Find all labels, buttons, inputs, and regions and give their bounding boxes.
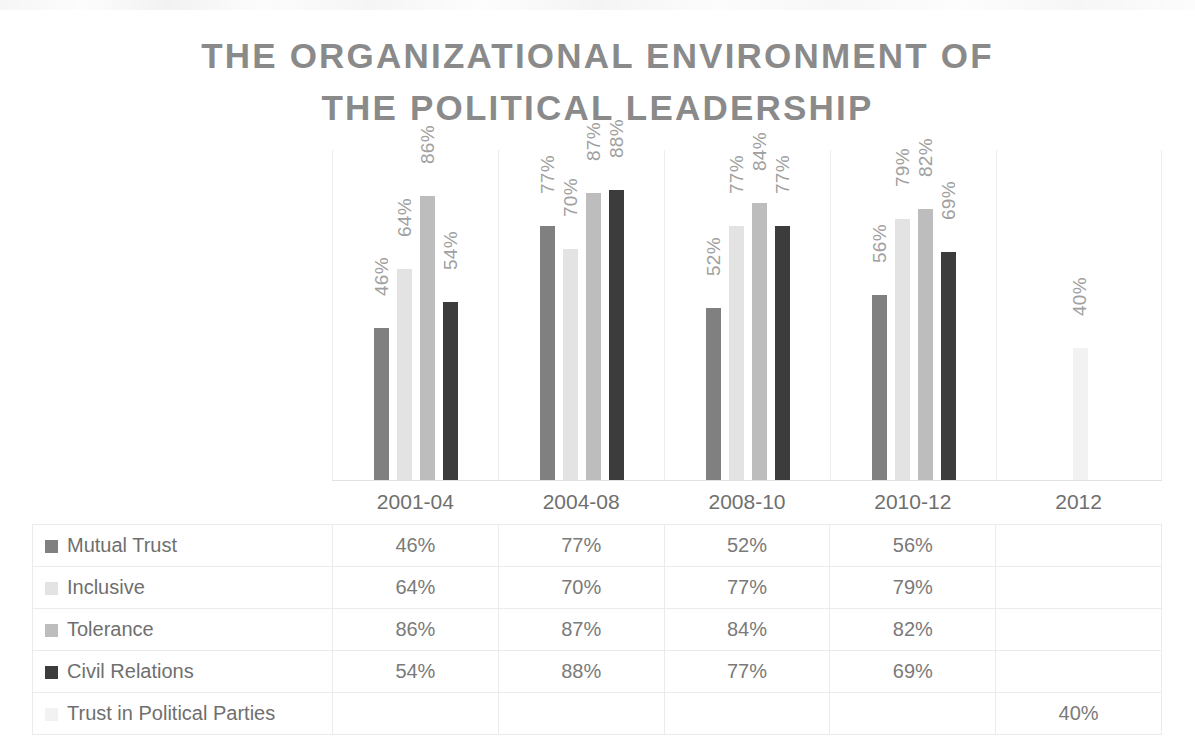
bar-group: 77%70%87%88% xyxy=(499,150,664,480)
legend-swatch-icon xyxy=(45,540,58,553)
bar-rect xyxy=(729,226,744,480)
table-row: Mutual Trust46%77%52%56% xyxy=(33,525,1162,567)
chart-title-line-1: THE ORGANIZATIONAL ENVIRONMENT OF xyxy=(0,30,1195,82)
plot-column-2004-08: 77%70%87%88% xyxy=(498,150,664,480)
legend-item-inclusive[interactable]: Inclusive xyxy=(33,567,333,609)
bar-rect xyxy=(775,226,790,480)
bar-mutual-trust-2001-04[interactable]: 46% xyxy=(374,150,389,480)
bar-civil-relations-2010-12[interactable]: 69% xyxy=(941,150,956,480)
legend-swatch-icon xyxy=(45,582,58,595)
table-cell: 56% xyxy=(830,525,996,567)
table-row: Civil Relations54%88%77%69% xyxy=(33,651,1162,693)
bar-group: 52%77%84%77% xyxy=(665,150,830,480)
table-cell: 86% xyxy=(333,609,499,651)
legend-swatch-icon xyxy=(45,708,58,721)
legend-item-civil-relations[interactable]: Civil Relations xyxy=(33,651,333,693)
bar-rect xyxy=(918,209,933,480)
legend-label: Inclusive xyxy=(67,576,145,598)
table-cell: 88% xyxy=(498,651,664,693)
legend-swatch-icon xyxy=(45,666,58,679)
plot-column-2008-10: 52%77%84%77% xyxy=(664,150,830,480)
bar-value-label: 70% xyxy=(560,178,582,217)
bar-value-label: 40% xyxy=(1069,277,1091,316)
bar-rect xyxy=(1073,348,1088,480)
legend-label: Trust in Political Parties xyxy=(67,702,275,724)
bar-value-label: 77% xyxy=(772,155,794,194)
plot-column-2001-04: 46%64%86%54% xyxy=(332,150,498,480)
bar-tolerance-2001-04[interactable]: 86% xyxy=(420,150,435,480)
bar-rect xyxy=(895,219,910,480)
bar-tolerance-2004-08[interactable]: 87% xyxy=(586,150,601,480)
chart-container: THE ORGANIZATIONAL ENVIRONMENT OF THE PO… xyxy=(0,0,1195,736)
table-row: Tolerance86%87%84%82% xyxy=(33,609,1162,651)
table-cell: 46% xyxy=(333,525,499,567)
table-cell xyxy=(333,693,499,735)
bar-mutual-trust-2004-08[interactable]: 77% xyxy=(540,150,555,480)
bar-mutual-trust-2010-12[interactable]: 56% xyxy=(872,150,887,480)
axis-label-2001-04: 2001-04 xyxy=(333,480,499,525)
bar-value-label: 79% xyxy=(892,148,914,187)
bar-value-label: 69% xyxy=(938,181,960,220)
bar-value-label: 88% xyxy=(606,119,628,158)
bar-value-label: 77% xyxy=(726,155,748,194)
legend-item-tolerance[interactable]: Tolerance xyxy=(33,609,333,651)
bar-rect xyxy=(420,196,435,480)
plot-column-2012: 40% xyxy=(996,150,1162,480)
bar-rect xyxy=(563,249,578,480)
bar-civil-relations-2001-04[interactable]: 54% xyxy=(443,150,458,480)
bar-value-label: 86% xyxy=(417,125,439,164)
axis-label-2012: 2012 xyxy=(996,480,1162,525)
bar-value-label: 84% xyxy=(749,132,771,171)
bar-trust-in-political-parties-2012[interactable]: 40% xyxy=(1073,150,1088,480)
legend-item-trust-in-political-parties[interactable]: Trust in Political Parties xyxy=(33,693,333,735)
axis-label-2010-12: 2010-12 xyxy=(830,480,996,525)
bar-tolerance-2008-10[interactable]: 84% xyxy=(752,150,767,480)
bar-value-label: 77% xyxy=(537,155,559,194)
bar-inclusive-2004-08[interactable]: 70% xyxy=(563,150,578,480)
table-cell: 87% xyxy=(498,609,664,651)
bar-tolerance-2010-12[interactable]: 82% xyxy=(918,150,933,480)
table-cell: 54% xyxy=(333,651,499,693)
table-cell: 77% xyxy=(664,567,830,609)
bar-rect xyxy=(706,308,721,480)
bar-civil-relations-2008-10[interactable]: 77% xyxy=(775,150,790,480)
bar-rect xyxy=(374,328,389,480)
bar-group: 46%64%86%54% xyxy=(333,150,498,480)
table-cell: 64% xyxy=(333,567,499,609)
chart-title: THE ORGANIZATIONAL ENVIRONMENT OF THE PO… xyxy=(0,30,1195,134)
legend-label: Civil Relations xyxy=(67,660,194,682)
bar-value-label: 56% xyxy=(869,224,891,263)
bar-rect xyxy=(752,203,767,480)
table-cell: 84% xyxy=(664,609,830,651)
bar-rect xyxy=(540,226,555,480)
table-cell xyxy=(996,609,1162,651)
bar-value-label: 52% xyxy=(703,237,725,276)
bar-value-label: 54% xyxy=(440,231,462,270)
bar-civil-relations-2004-08[interactable]: 88% xyxy=(609,150,624,480)
plot-column-2010-12: 56%79%82%69% xyxy=(830,150,996,480)
table-cell: 79% xyxy=(830,567,996,609)
table-cell: 77% xyxy=(664,651,830,693)
legend-swatch-icon xyxy=(45,624,58,637)
table-cell xyxy=(996,651,1162,693)
table-cell: 69% xyxy=(830,651,996,693)
table-cell xyxy=(830,693,996,735)
table-cell xyxy=(664,693,830,735)
bar-rect xyxy=(941,252,956,480)
table-cell: 52% xyxy=(664,525,830,567)
bar-inclusive-2010-12[interactable]: 79% xyxy=(895,150,910,480)
bar-inclusive-2008-10[interactable]: 77% xyxy=(729,150,744,480)
axis-label-2004-08: 2004-08 xyxy=(498,480,664,525)
bar-value-label: 82% xyxy=(915,138,937,177)
bar-mutual-trust-2008-10[interactable]: 52% xyxy=(706,150,721,480)
bar-value-label: 87% xyxy=(583,122,605,161)
bar-inclusive-2001-04[interactable]: 64% xyxy=(397,150,412,480)
table-cell: 40% xyxy=(996,693,1162,735)
legend-item-mutual-trust[interactable]: Mutual Trust xyxy=(33,525,333,567)
plot-area: 46%64%86%54%77%70%87%88%52%77%84%77%56%7… xyxy=(332,150,1162,480)
axis-label-2008-10: 2008-10 xyxy=(664,480,830,525)
legend-label: Mutual Trust xyxy=(67,534,177,556)
table-cell xyxy=(996,567,1162,609)
axis-label-row: 2001-042004-082008-102010-122012 xyxy=(33,480,1162,525)
table-cell xyxy=(996,525,1162,567)
